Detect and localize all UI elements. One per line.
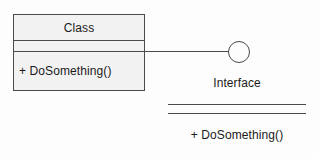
class-name-compartment: Class	[14, 15, 144, 41]
interface-operation-label: + DoSomething()	[168, 128, 306, 142]
interface-name-label: Interface	[168, 76, 306, 90]
class-operations-compartment: + DoSomething()	[14, 52, 144, 90]
lollipop-connector-line	[145, 51, 229, 52]
interface-separator-line-top	[168, 104, 306, 105]
class-name-label: Class	[64, 21, 95, 35]
diagram-canvas: Class + DoSomething() Interface + DoSome…	[0, 0, 319, 159]
class-box[interactable]: Class + DoSomething()	[13, 14, 145, 91]
provided-interface-ball-icon[interactable]	[228, 41, 250, 63]
interface-separator-line-bottom	[168, 113, 306, 114]
class-attributes-compartment	[14, 41, 144, 52]
class-operation-label: + DoSomething()	[19, 64, 112, 78]
